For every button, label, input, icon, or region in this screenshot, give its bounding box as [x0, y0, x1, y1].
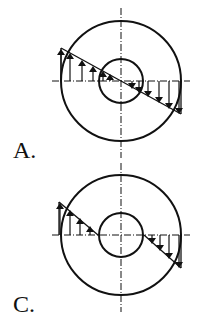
option-label-c: C. [13, 292, 35, 316]
stress-diagram-c [0, 0, 201, 319]
figure-c: C. [0, 0, 201, 319]
